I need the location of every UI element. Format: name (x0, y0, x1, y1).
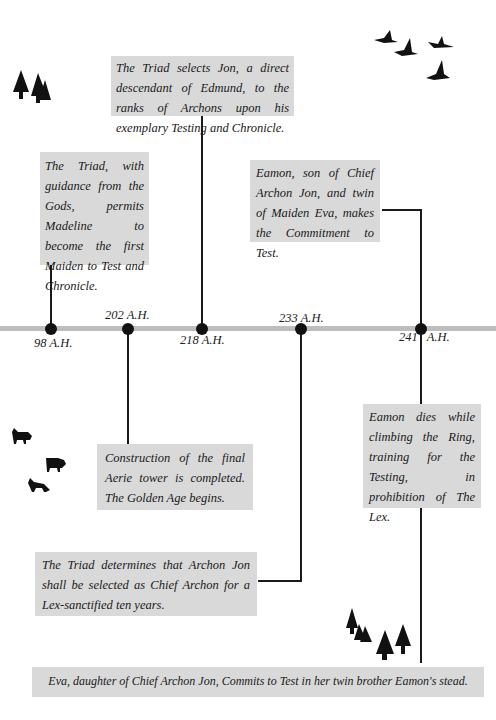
connector-241-up (420, 209, 422, 328)
connector-218 (201, 116, 203, 328)
date-label-241: 241 A.H. (399, 330, 450, 345)
connector-233-h (258, 580, 302, 582)
connector-241-h (382, 209, 422, 211)
date-label-233: 233 A.H. (279, 311, 324, 326)
connector-233 (300, 329, 302, 582)
dot-202 (122, 323, 134, 335)
event-box-241-eva: Eva, daughter of Chief Archon Jon, Commi… (32, 667, 484, 697)
wolves-icon (10, 428, 70, 498)
event-box-241-commit: Eamon, son of Chief Archon Jon, and twin… (250, 160, 380, 242)
event-box-98: The Triad, with guidance from the Gods, … (40, 152, 149, 265)
date-label-218: 218 A.H. (180, 333, 225, 348)
trees-icon (10, 70, 55, 105)
event-box-233: The Triad determines that Archon Jon sha… (35, 552, 257, 616)
event-box-202: Construction of the final Aerie tower is… (97, 444, 253, 510)
event-box-241-death: Eamon dies while climbing the Ring, trai… (363, 404, 481, 508)
event-box-218: The Triad selects Jon, a direct descenda… (111, 56, 294, 116)
date-label-202: 202 A.H. (105, 308, 150, 323)
connector-202 (127, 329, 129, 444)
date-label-98: 98 A.H. (34, 336, 72, 351)
forest-icon (345, 608, 415, 660)
flying-geese-icon (372, 30, 462, 85)
dot-98 (45, 323, 57, 335)
